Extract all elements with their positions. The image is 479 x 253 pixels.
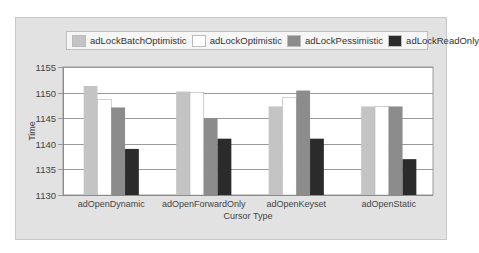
- y-axis: 113011351140114511501155: [36, 62, 64, 201]
- bar: [190, 93, 204, 195]
- bar: [204, 118, 218, 195]
- bar: [296, 91, 310, 195]
- bar: [310, 139, 324, 195]
- bar: [84, 86, 98, 195]
- bar: [282, 98, 296, 195]
- bar: [375, 106, 389, 195]
- bar: [218, 139, 232, 195]
- bar: [389, 106, 403, 195]
- bar: [403, 159, 417, 195]
- y-tick-label: 1130: [36, 190, 56, 201]
- x-tick-label: adOpenDynamic: [78, 199, 146, 209]
- x-axis: adOpenDynamicadOpenForwardOnlyadOpenKeys…: [63, 196, 433, 210]
- y-axis-title: Time: [27, 121, 37, 141]
- bar: [125, 149, 139, 195]
- y-tick-label: 1135: [36, 164, 56, 175]
- bar: [269, 106, 283, 195]
- bar: [111, 107, 125, 195]
- y-tick-label: 1150: [36, 88, 56, 99]
- x-tick-label: adOpenForwardOnly: [162, 199, 246, 209]
- y-tick-label: 1145: [36, 113, 56, 124]
- x-tick-label: adOpenStatic: [361, 199, 416, 209]
- bar: [361, 106, 375, 195]
- bar: [97, 99, 111, 195]
- y-tick-label: 1140: [36, 139, 56, 150]
- bar: [176, 92, 190, 195]
- x-tick-label: adOpenKeyset: [266, 199, 326, 209]
- x-axis-title: Cursor Type: [224, 211, 273, 221]
- y-tick-label: 1155: [36, 62, 56, 73]
